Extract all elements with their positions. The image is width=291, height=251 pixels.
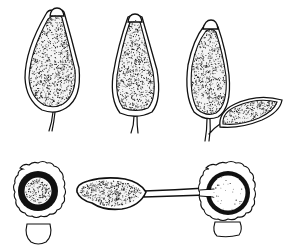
spore-illustration — [0, 0, 291, 251]
spore-core — [211, 176, 246, 211]
basal-blob — [26, 224, 51, 244]
basal-blob — [214, 222, 241, 237]
stalk — [49, 112, 55, 131]
germinating-spore-middle — [77, 178, 206, 210]
apical-papilla — [50, 8, 64, 16]
germ-tube — [144, 188, 206, 197]
apical-papilla — [203, 20, 218, 29]
encysted-spore-right — [199, 162, 256, 237]
sporangium-3-lateral — [220, 97, 282, 127]
apical-papilla — [128, 14, 142, 22]
